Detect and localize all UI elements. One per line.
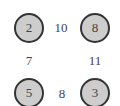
node-top-left: 2 (14, 13, 44, 43)
edge-label-bottom: 8 (59, 87, 66, 100)
node-label: 3 (92, 85, 99, 101)
node-label: 5 (26, 85, 33, 101)
node-label: 8 (92, 20, 99, 36)
node-top-right: 8 (80, 13, 110, 43)
edge-label-top: 10 (55, 21, 68, 34)
node-bottom-left: 5 (14, 78, 44, 106)
node-label: 2 (26, 20, 33, 36)
edge-label-left: 7 (26, 54, 33, 67)
node-bottom-right: 3 (80, 78, 110, 106)
edge-label-right: 11 (89, 54, 102, 67)
